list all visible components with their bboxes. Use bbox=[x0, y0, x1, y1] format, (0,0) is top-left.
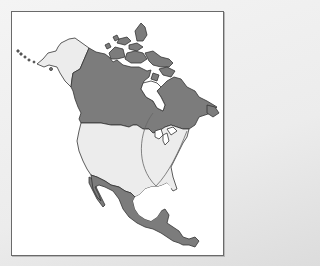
map-frame bbox=[11, 11, 224, 256]
north-america-map bbox=[12, 12, 223, 255]
